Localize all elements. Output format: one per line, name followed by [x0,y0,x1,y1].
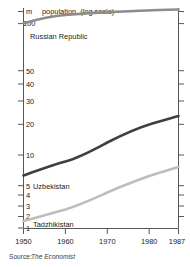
y-axis-unit-label: m [26,7,32,16]
x-tick-label-1980: 1980 [141,237,157,246]
series-label-russian-republic: Russian Republic [30,32,88,41]
y-tick-label-1: 1 [26,224,30,233]
y-tick-label-50: 50 [26,67,34,76]
y-tick-label-30: 30 [26,97,34,106]
x-tick-label-1960: 1960 [57,237,73,246]
y-tick-label-3: 3 [26,202,30,211]
source-note: Source: The Economist [9,253,76,260]
population-log-scale-line-chart: m 100 50 40 30 20 10 5 4 3 2 1 populatio… [0,0,190,267]
x-tick-label-1970: 1970 [99,237,115,246]
chart-figure: m 100 50 40 30 20 10 5 4 3 2 1 populatio… [0,0,190,267]
series-label-uzbekistan: Uzbekistan [33,182,70,191]
x-tick-label-1950: 1950 [15,237,31,246]
y-tick-label-10: 10 [26,151,34,160]
y-tick-label-20: 20 [26,120,34,129]
source-prefix: Source: [9,253,32,260]
series-label-tadzhikistan: Tadzhikistan [33,220,74,229]
source-publication: The Economist [31,253,76,260]
y-tick-label-40: 40 [26,80,34,89]
x-tick-label-1987: 1987 [169,237,185,246]
y-tick-label-5: 5 [26,182,30,191]
y-tick-label-4: 4 [26,191,30,200]
